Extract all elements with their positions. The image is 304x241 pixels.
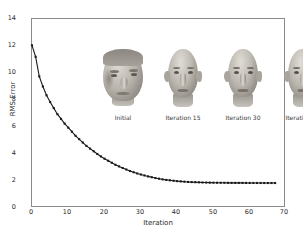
curve-marker (107, 160, 109, 162)
figure-canvas: 14 12 10 8 6 4 2 0 0 10 20 30 40 50 60 7… (0, 0, 303, 241)
x-tick-label: 40 (164, 209, 188, 216)
curve-marker (56, 113, 58, 115)
eye-right (188, 71, 193, 74)
ear-left (224, 71, 230, 82)
curve-marker (122, 167, 124, 169)
face-render-iteration-45 (274, 41, 303, 113)
brow-left (293, 67, 300, 69)
curve-marker (249, 182, 251, 184)
mouth (238, 89, 249, 92)
y-tick-label: 4 (0, 150, 16, 157)
eye-left (294, 71, 299, 74)
brow-right (247, 67, 254, 69)
curve-marker (35, 56, 37, 58)
ear-right (256, 71, 262, 82)
brow-left (233, 67, 240, 69)
thumbnail-caption: Iteration 45 (286, 114, 304, 121)
curve-marker (96, 153, 98, 155)
ear-left (164, 71, 170, 82)
curve-marker (172, 180, 174, 182)
curve-marker (71, 131, 73, 133)
y-tick-label: 0 (0, 204, 16, 211)
ear-right (196, 71, 202, 82)
eye-left (234, 71, 239, 74)
mouth (117, 92, 130, 95)
curve-marker (118, 165, 120, 167)
curve-marker (165, 179, 167, 181)
curve-marker (49, 101, 51, 103)
eye-right (248, 71, 253, 74)
curve-marker (143, 174, 145, 176)
thumbnail-item: Iteration 30 (214, 41, 272, 131)
curve-marker (169, 179, 171, 181)
curve-marker (67, 127, 69, 129)
curve-marker (180, 180, 182, 182)
curve-marker (78, 138, 80, 140)
curve-marker (89, 148, 91, 150)
mouth (298, 89, 304, 92)
curve-marker (74, 135, 76, 137)
thumbnail-caption: Iteration 30 (226, 114, 261, 121)
hair (103, 49, 143, 66)
curve-marker (151, 176, 153, 178)
face-render-iteration-30 (214, 41, 272, 113)
nose (121, 77, 128, 89)
x-tick-label: 50 (201, 209, 225, 216)
thumbnail-strip: Initial (94, 41, 303, 131)
curve-marker (140, 173, 142, 175)
y-tick-label: 12 (0, 42, 16, 49)
nose (240, 73, 246, 86)
curve-marker (147, 175, 149, 177)
curve-marker (241, 182, 243, 184)
curve-marker (114, 164, 116, 166)
thumbnail-item: Iteration 45 (274, 41, 303, 131)
x-axis-label: Iteration (31, 219, 285, 227)
curve-marker (183, 181, 185, 183)
curve-marker (176, 180, 178, 182)
face-render-initial (94, 41, 152, 113)
curve-marker (274, 182, 276, 184)
curve-marker (38, 75, 40, 77)
curve-marker (245, 182, 247, 184)
x-tick-label: 10 (55, 209, 79, 216)
x-tick-label: 70 (272, 209, 296, 216)
x-tick-label: 0 (19, 209, 43, 216)
curve-marker (234, 182, 236, 184)
curve-marker (216, 182, 218, 184)
x-tick-label: 60 (237, 209, 261, 216)
curve-marker (125, 168, 127, 170)
curve-marker (194, 181, 196, 183)
plot-area: Initial (31, 18, 285, 207)
curve-marker (220, 182, 222, 184)
curve-marker (53, 107, 55, 109)
nose (180, 73, 186, 86)
curve-marker (238, 182, 240, 184)
curve-marker (154, 177, 156, 179)
thumbnail-item: Initial (94, 41, 152, 131)
curve-marker (212, 182, 214, 184)
face-render-iteration-15 (154, 41, 212, 113)
nose (300, 73, 303, 86)
curve-marker (231, 182, 233, 184)
x-tick-label: 30 (128, 209, 152, 216)
thumbnail-caption: Iteration 15 (166, 114, 201, 121)
brow-right (187, 67, 194, 69)
brow-left (173, 67, 180, 69)
curve-marker (93, 150, 95, 152)
thumbnail-item: Iteration 15 (154, 41, 212, 131)
curve-marker (45, 94, 47, 96)
y-axis-label: RMS Error (9, 69, 17, 129)
curve-marker (205, 182, 207, 184)
curve-marker (209, 182, 211, 184)
curve-marker (85, 145, 87, 147)
brow-right (129, 69, 138, 72)
eye-right (131, 73, 137, 76)
curve-marker (82, 141, 84, 143)
y-tick-label: 14 (0, 15, 16, 22)
mouth (178, 89, 189, 92)
curve-marker (104, 158, 106, 160)
curve-marker (187, 181, 189, 183)
curve-marker (267, 182, 269, 184)
curve-marker (260, 182, 262, 184)
curve-marker (136, 172, 138, 174)
